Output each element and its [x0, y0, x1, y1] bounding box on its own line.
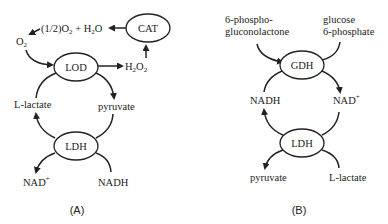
nad-label-a: NAD+ [23, 175, 50, 188]
ldh-label-a: LDH [65, 141, 87, 152]
gdh-to-nad-arrow [322, 71, 340, 92]
lactate-to-ldh-arc [322, 150, 339, 168]
pyruvate-label-a: pyruvate [98, 101, 135, 112]
peroxide-label: H2O2 [125, 61, 148, 74]
panel-b: 6-phospho- gluconolactone glucose 6-phos… [225, 14, 375, 216]
glucose-6-phosphate-to-gdh-arc [322, 42, 340, 60]
phosphogluconolactone-label-line2: gluconolactone [225, 26, 289, 37]
glucose-6-phosphate-label-line2: 6-phosphate [323, 26, 375, 37]
ldh-to-lactate-arrow [36, 114, 55, 138]
nad-to-ldh-arc [322, 112, 339, 135]
nadh-to-ldh-arc [96, 153, 111, 172]
ldh-to-nadh-arrow [264, 110, 283, 135]
gdh-label: GDH [291, 60, 314, 71]
pyruvate-to-ldh-arc [96, 114, 113, 138]
panel-b-caption: (B) [292, 204, 307, 216]
lactate-label-b: L-lactate [329, 172, 367, 183]
lactate-to-lod-arc [36, 73, 56, 98]
lod-to-pyruvate-arrow [96, 73, 114, 98]
panel-a: CAT (1/2)O2 + H2O O2 LOD H2O2 L-lactate … [14, 14, 170, 216]
phosphogluconolactone-to-gdh-arrow [257, 44, 282, 62]
phosphogluconolactone-label-line1: 6-phospho- [225, 14, 273, 25]
enzyme-cascade-diagram: CAT (1/2)O2 + H2O O2 LOD H2O2 L-lactate … [0, 0, 388, 224]
oxygen-to-lod-arrow [26, 50, 52, 65]
ldh-to-pyruvate-arrow [265, 150, 283, 168]
half-oxygen-water-label: (1/2)O2 + H2O [41, 23, 103, 36]
glucose-6-phosphate-label-line1: glucose [323, 14, 355, 25]
lod-label: LOD [65, 62, 87, 73]
pyruvate-label-b: pyruvate [250, 172, 287, 183]
nadh-to-gdh-arc [264, 71, 282, 92]
panel-a-caption: (A) [70, 204, 85, 216]
ldh-label-b: LDH [291, 138, 313, 149]
cat-label: CAT [138, 23, 158, 34]
nadh-label-a: NADH [98, 177, 129, 188]
nadh-label-b: NADH [250, 95, 281, 106]
nad-label-b: NAD+ [333, 93, 360, 106]
ldh-to-nad-arrow [36, 153, 55, 172]
lactate-label-a: L-lactate [14, 99, 52, 110]
oxygen-label: O2 [16, 36, 28, 49]
to-oxygen-arrow [30, 29, 40, 34]
